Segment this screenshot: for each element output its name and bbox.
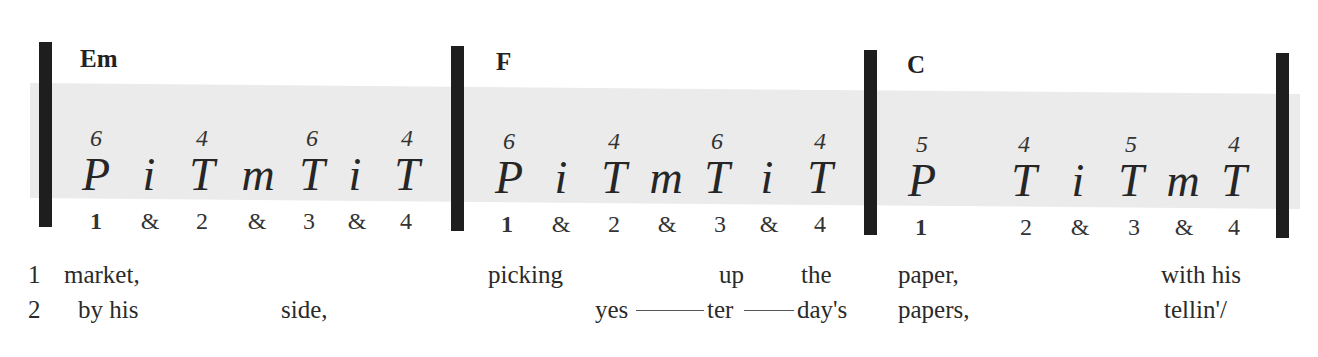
beat-count: 1	[501, 212, 513, 236]
beat-count: 3	[1128, 215, 1140, 239]
finger-stroke: T	[299, 152, 325, 198]
finger-stroke: T	[1118, 158, 1144, 204]
bar-line-4	[1276, 53, 1289, 238]
finger-stroke: T	[1221, 158, 1247, 204]
lyric-word: ter	[707, 297, 733, 322]
string-number: 4	[814, 129, 826, 153]
bar-line-3	[864, 50, 877, 235]
beat-count: 4	[1228, 215, 1240, 239]
string-number: 4	[1018, 132, 1030, 156]
beat-count: 3	[303, 209, 315, 233]
string-number: 4	[1228, 132, 1240, 156]
string-number: 6	[306, 126, 318, 150]
finger-stroke: i	[761, 155, 774, 201]
string-number: 6	[711, 129, 723, 153]
beat-count: &	[348, 209, 367, 233]
lyric-word: by his	[78, 297, 138, 322]
lyric-word: side,	[281, 297, 328, 322]
finger-stroke: T	[601, 155, 627, 201]
beat-count: 2	[608, 212, 620, 236]
string-number: 4	[401, 126, 413, 150]
lyric-word: day's	[797, 297, 847, 322]
syllable-hyphen	[744, 310, 794, 311]
finger-stroke: T	[394, 152, 420, 198]
lyric-word: tellin'/	[1164, 297, 1227, 322]
string-number: 6	[503, 129, 515, 153]
beat-count: 3	[714, 212, 726, 236]
finger-stroke: m	[1166, 158, 1199, 204]
beat-count: &	[552, 212, 571, 236]
finger-stroke: T	[189, 152, 215, 198]
beat-count: &	[760, 212, 779, 236]
chord-label-c: C	[907, 51, 925, 79]
beat-count: 1	[90, 209, 102, 233]
beat-count: 4	[400, 209, 412, 233]
beat-count: 2	[196, 209, 208, 233]
lyric-word: the	[801, 262, 832, 287]
string-number: 6	[90, 126, 102, 150]
beat-count: &	[658, 212, 677, 236]
beat-count: &	[1071, 215, 1090, 239]
finger-stroke: T	[704, 155, 730, 201]
finger-stroke: i	[349, 152, 362, 198]
beat-count: &	[141, 209, 160, 233]
finger-stroke: P	[82, 152, 110, 198]
string-number: 5	[916, 132, 928, 156]
verse-number-2: 2	[28, 297, 41, 322]
lyric-word: yes	[595, 297, 628, 322]
string-number: 5	[1125, 132, 1137, 156]
finger-stroke: T	[1011, 158, 1037, 204]
finger-stroke: P	[908, 158, 936, 204]
bar-line-1	[39, 42, 52, 227]
verse-number-1: 1	[28, 262, 41, 287]
lyric-word: papers,	[898, 297, 970, 322]
finger-stroke: m	[241, 152, 274, 198]
beat-count: &	[248, 209, 267, 233]
finger-stroke: i	[143, 152, 156, 198]
chord-label-f: F	[496, 48, 511, 76]
bar-line-2	[451, 46, 464, 231]
string-number: 4	[196, 126, 208, 150]
finger-stroke: P	[495, 155, 523, 201]
beat-count: 4	[814, 212, 826, 236]
lyric-word: with his	[1161, 262, 1241, 287]
finger-stroke: T	[807, 155, 833, 201]
beat-count: 1	[915, 215, 927, 239]
string-number: 4	[608, 129, 620, 153]
lyric-word: up	[719, 262, 744, 287]
syllable-hyphen	[636, 310, 704, 311]
finger-stroke: i	[555, 155, 568, 201]
beat-count: 2	[1020, 215, 1032, 239]
lyric-word: picking	[488, 262, 563, 287]
lyric-word: market,	[64, 262, 140, 287]
beat-count: &	[1175, 215, 1194, 239]
lyric-word: paper,	[898, 262, 959, 287]
finger-stroke: i	[1072, 158, 1085, 204]
finger-stroke: m	[649, 155, 682, 201]
chord-label-em: Em	[80, 45, 118, 73]
